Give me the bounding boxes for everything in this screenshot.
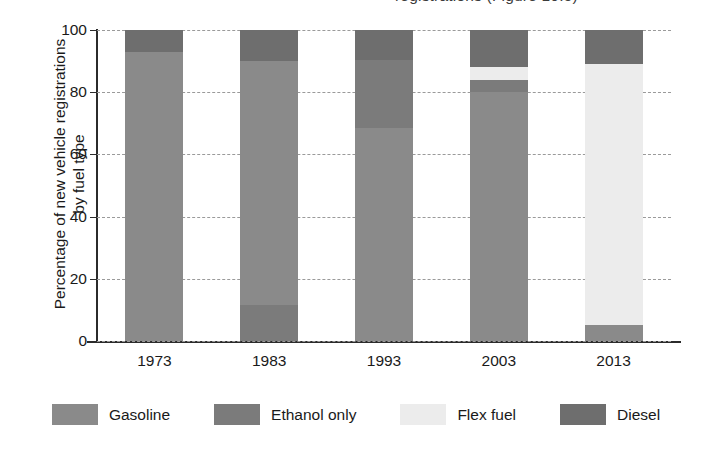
y-axis-title-line-1: Percentage of new vehicle registrations [50, 9, 69, 339]
gridline [97, 341, 671, 342]
y-tick-mark [90, 92, 97, 93]
legend-label: Diesel [617, 406, 660, 424]
legend-swatch [52, 404, 98, 425]
bar-segment-diesel[interactable] [240, 30, 298, 61]
bar-1993[interactable] [355, 30, 413, 341]
legend-item-ethanol-only[interactable]: Ethanol only [214, 404, 400, 425]
chart-legend: GasolineEthanol onlyFlex fuelDiesel [0, 404, 712, 425]
bar-2003[interactable] [470, 30, 528, 341]
y-tick-label: 80 [70, 83, 87, 101]
y-tick-label: 60 [70, 145, 87, 163]
bar-segment-gasoline[interactable] [240, 61, 298, 305]
x-tick-label-1973: 1973 [137, 352, 171, 370]
bar-segment-ethanol-only[interactable] [355, 60, 413, 128]
bar-segment-gasoline[interactable] [585, 325, 643, 341]
bar-segment-diesel[interactable] [470, 30, 528, 67]
y-tick-label: 100 [61, 21, 87, 39]
y-tick-mark [90, 341, 97, 342]
bar-segment-ethanol-only[interactable] [470, 80, 528, 92]
bar-segment-gasoline[interactable] [125, 52, 183, 341]
legend-label: Ethanol only [271, 406, 356, 424]
x-tick-label-1993: 1993 [367, 352, 401, 370]
y-tick-label: 20 [70, 270, 87, 288]
legend-swatch [214, 404, 260, 425]
y-tick-mark [90, 279, 97, 280]
bar-1973[interactable] [125, 30, 183, 341]
legend-label: Gasoline [109, 406, 170, 424]
legend-swatch [400, 404, 446, 425]
bar-2013[interactable] [585, 30, 643, 341]
bar-1983[interactable] [240, 30, 298, 341]
bar-segment-flex-fuel[interactable] [585, 64, 643, 325]
bar-segment-flex-fuel[interactable] [470, 67, 528, 79]
legend-swatch [560, 404, 606, 425]
y-tick-label: 0 [78, 332, 87, 350]
x-tick-label-2013: 2013 [596, 352, 630, 370]
bar-segment-ethanol-only[interactable] [240, 305, 298, 341]
legend-item-gasoline[interactable]: Gasoline [52, 404, 214, 425]
bar-segment-diesel[interactable] [585, 30, 643, 64]
y-tick-label: 40 [70, 208, 87, 226]
y-axis-title-line-2: by fuel type [69, 9, 88, 339]
legend-label: Flex fuel [457, 406, 516, 424]
stacked-bar-chart: Percentage of new vehicle registrations … [0, 0, 712, 459]
bar-segment-diesel[interactable] [125, 30, 183, 52]
y-tick-mark [90, 217, 97, 218]
y-axis-title: Percentage of new vehicle registrations … [50, 9, 88, 339]
y-tick-mark [90, 30, 97, 31]
plot-region: 020406080100 [97, 30, 671, 341]
y-tick-mark [90, 154, 97, 155]
x-tick-label-1983: 1983 [252, 352, 286, 370]
legend-item-flex-fuel[interactable]: Flex fuel [400, 404, 560, 425]
bar-segment-diesel[interactable] [355, 30, 413, 60]
bar-segment-gasoline[interactable] [470, 92, 528, 341]
legend-item-diesel[interactable]: Diesel [560, 404, 660, 425]
bar-segment-gasoline[interactable] [355, 128, 413, 341]
x-tick-label-2003: 2003 [482, 352, 516, 370]
